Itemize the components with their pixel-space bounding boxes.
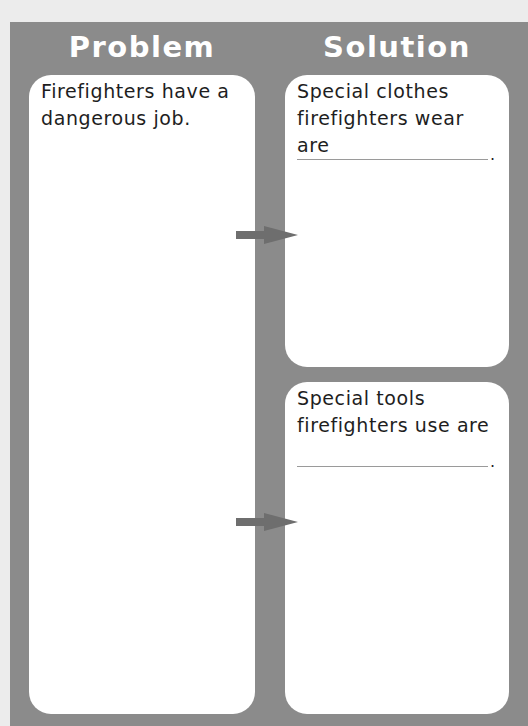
solution-box-tools: Special tools firefighters use are . — [285, 382, 509, 714]
solution-box-clothes: Special clothes firefighters wear are . — [285, 75, 509, 367]
answer-blank-tools[interactable] — [297, 466, 488, 467]
arrow-right-icon — [236, 512, 298, 532]
solution-prompt-tools: Special tools firefighters use are — [297, 385, 501, 439]
blank-period: . — [490, 147, 495, 163]
solution-prompt-clothes: Special clothes firefighters wear are — [297, 78, 501, 159]
arrow-right-icon — [236, 225, 298, 245]
problem-text: Firefighters have a dangerous job. — [41, 78, 247, 132]
solution-header: Solution — [285, 24, 509, 70]
problem-box: Firefighters have a dangerous job. — [29, 75, 255, 714]
problem-header: Problem — [29, 24, 255, 70]
blank-period: . — [490, 454, 495, 470]
answer-blank-clothes[interactable] — [297, 159, 488, 160]
